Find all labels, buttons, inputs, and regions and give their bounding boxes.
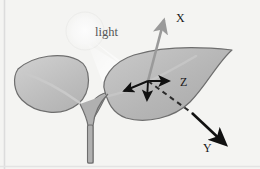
z-axis-label: Z (180, 75, 187, 89)
y-axis-label: Y (203, 141, 212, 155)
x-axis-label: X (176, 11, 185, 25)
stem-lower-segment (88, 125, 94, 163)
leaf-coordinate-diagram: X Z Y light (0, 0, 260, 169)
downward-projection-arrow (147, 81, 148, 100)
light-source-label: light (95, 25, 118, 39)
